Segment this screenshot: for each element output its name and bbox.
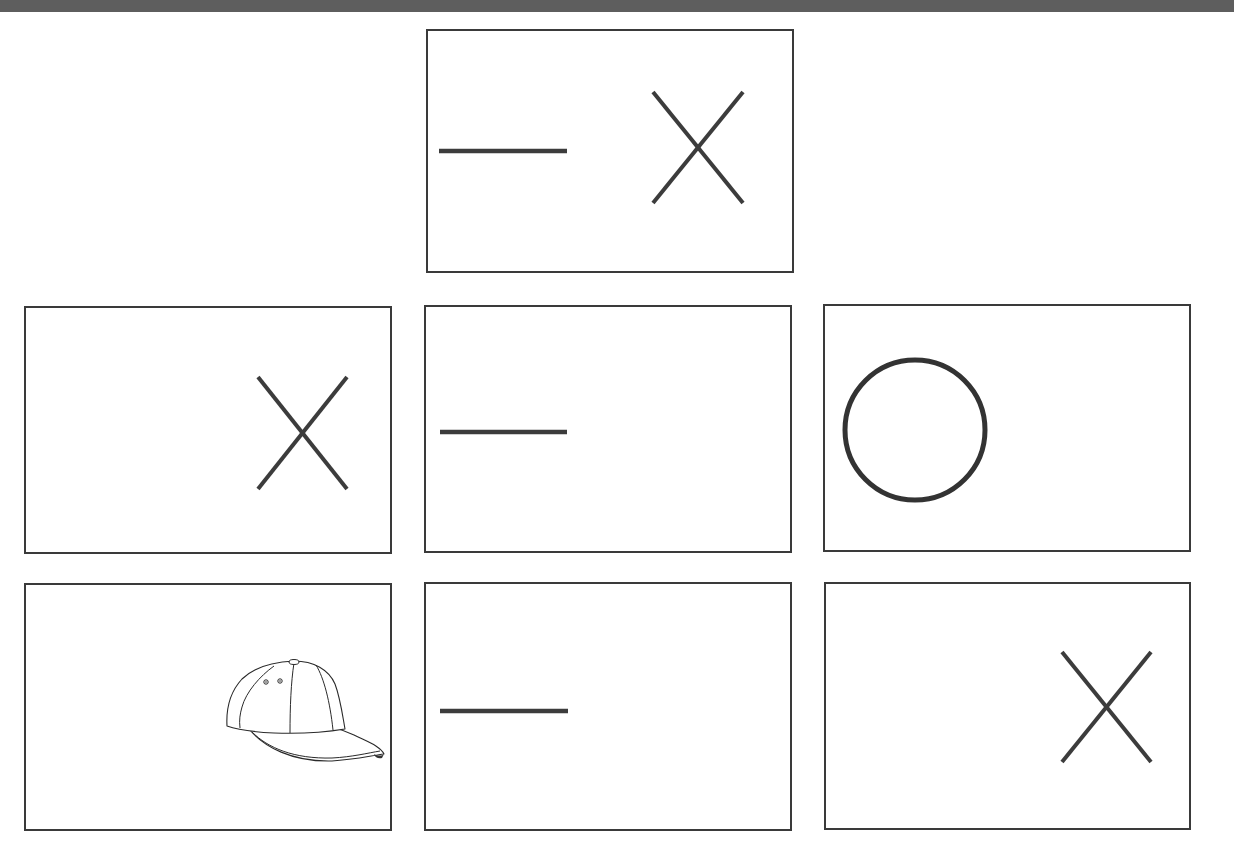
card-r2c1-symbols xyxy=(26,585,394,833)
card-r1c1-symbols xyxy=(26,308,394,556)
card-r1c3-symbols xyxy=(825,306,1193,554)
card-r2c3[interactable] xyxy=(824,582,1191,830)
card-r1c2[interactable] xyxy=(424,305,792,553)
card-r2c3-symbols xyxy=(826,584,1193,832)
x-icon xyxy=(653,92,743,203)
x-icon xyxy=(258,377,347,489)
baseball-cap-icon xyxy=(227,660,384,762)
card-r1c2-symbols xyxy=(426,307,794,555)
circle-icon xyxy=(845,360,985,500)
card-top[interactable] xyxy=(426,29,794,273)
card-r2c2-symbols xyxy=(426,584,794,833)
card-r1c1[interactable] xyxy=(24,306,392,554)
card-r2c1[interactable] xyxy=(24,583,392,831)
card-r2c2[interactable] xyxy=(424,582,792,831)
card-top-symbols xyxy=(428,31,796,275)
x-icon xyxy=(1062,652,1151,762)
card-r1c3[interactable] xyxy=(823,304,1191,552)
top-bar xyxy=(0,0,1234,12)
